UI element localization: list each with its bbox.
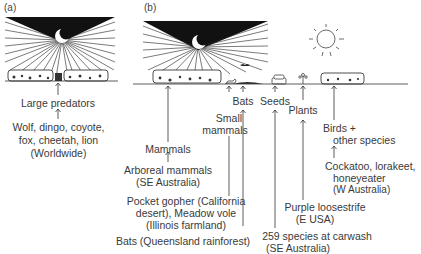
- mammals-label: Mammals: [140, 143, 196, 155]
- honeyeater-label: honeyeater: [333, 172, 413, 184]
- other-species-label: other species: [333, 134, 413, 146]
- panel-a-scene: [5, 17, 115, 78]
- sun-icon: [309, 24, 344, 56]
- carwash-region: (SE Australia): [253, 242, 343, 254]
- animal-icon: [226, 79, 236, 84]
- car-icon: [272, 75, 286, 84]
- purple-loosestrife-label: Purple loosestrife: [270, 201, 380, 213]
- vegetation-patch: [8, 70, 53, 81]
- small-mammals-label-2: mammals: [193, 124, 257, 136]
- plants-label: Plants: [285, 104, 321, 116]
- pocket-gopher-label-2: desert), Meadow vole: [116, 207, 256, 219]
- panel-a-label: (a): [4, 2, 16, 13]
- vegetation-patch: [64, 70, 108, 81]
- small-mammals-label: Small: [205, 112, 253, 124]
- bats-label: Bats: [230, 95, 256, 107]
- pocket-gopher-label: Pocket gopher (California: [116, 195, 256, 207]
- animal-icon: [55, 73, 62, 81]
- flower-icon: [299, 74, 307, 85]
- cockatoo-label: Cockatoo, lorakeet,: [325, 160, 421, 172]
- carwash-label: 259 species at carwash: [253, 230, 381, 242]
- birds-label: Birds +: [323, 122, 363, 134]
- pocket-gopher-label-3: (Illinois farmland): [116, 219, 256, 231]
- purple-loosestrife-region: (E USA): [280, 213, 350, 225]
- w-australia-label: (W Australia): [333, 184, 413, 196]
- large-predators-label: Large predators: [18, 97, 98, 109]
- bats-example-label: Bats (Queensland rainforest): [113, 235, 253, 247]
- arboreal-mammals-region: (SE Australia): [108, 176, 228, 188]
- bat-icon: [240, 64, 250, 66]
- arboreal-mammals-label: Arboreal mammals: [108, 164, 228, 176]
- panel-b-label: (b): [144, 2, 156, 13]
